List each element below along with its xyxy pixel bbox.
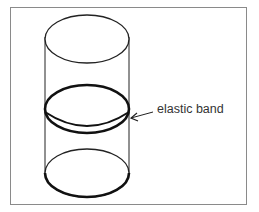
top-ring <box>45 15 129 63</box>
elastic-band-label: elastic band <box>157 102 224 116</box>
